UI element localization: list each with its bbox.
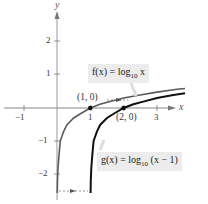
point-2-0: [121, 106, 126, 111]
g-label-leader: [100, 140, 104, 150]
x-tick-3: 3: [154, 113, 159, 122]
shift-arrow-bottom-head-icon: [70, 189, 76, 193]
y-axis-arrow-icon: [55, 11, 60, 19]
x-tick-neg1: −1: [15, 113, 25, 122]
point-1-0: [88, 106, 93, 111]
y-tick-2: 2: [46, 36, 51, 45]
f-curve: [57, 89, 185, 192]
x-axis-arrow-icon: [168, 106, 176, 111]
log-graph: [0, 0, 208, 204]
x-tick-1: 1: [88, 113, 93, 122]
x-axis-label: x: [179, 102, 183, 112]
point-2-0-label: (2, 0): [116, 113, 137, 123]
y-tick-1: 1: [46, 69, 51, 78]
g-function-label: g(x) = log10 (x − 1): [97, 152, 182, 171]
f-function-label: f(x) = log10 x: [88, 64, 149, 83]
y-tick-neg2: −2: [38, 169, 48, 178]
y-axis-label: y: [55, 0, 59, 10]
point-1-0-label: (1, 0): [77, 93, 98, 103]
y-tick-neg1: −1: [38, 136, 48, 145]
